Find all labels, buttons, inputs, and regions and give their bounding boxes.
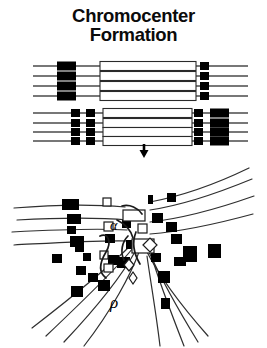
arm-down-right-2 [149, 252, 198, 342]
strand-row [33, 92, 248, 101]
svg-text:ρ: ρ [109, 293, 118, 312]
upper-panel-svg [0, 55, 267, 160]
strand-row [33, 128, 248, 137]
svg-text:α: α [110, 218, 118, 233]
strand-row [33, 82, 248, 91]
upper-panel-schematic [0, 55, 267, 160]
chromosome-group-1 [33, 62, 248, 101]
figure-root: Chromocenter Formation [0, 0, 267, 348]
arm-right-4 [150, 214, 253, 234]
lower-panel-drawing: α ρ [0, 160, 267, 348]
arm-down-right-4 [147, 256, 160, 346]
strand-row [33, 72, 248, 81]
lower-panel-svg: α ρ [0, 160, 267, 348]
chromosome-group-2 [33, 109, 248, 146]
arm-right-1 [150, 168, 249, 202]
title-line-2: Formation [0, 25, 267, 44]
arm-right-2 [150, 179, 252, 210]
strand-row [33, 62, 248, 71]
strand-row [33, 109, 248, 118]
downward-arrow-icon [140, 144, 149, 158]
title-line-1: Chromocenter [0, 6, 267, 25]
strand-row [33, 119, 248, 128]
page-title: Chromocenter Formation [0, 6, 267, 44]
strand-row [33, 137, 248, 146]
